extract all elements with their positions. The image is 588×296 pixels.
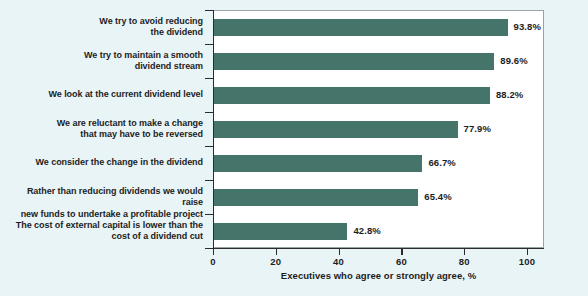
plot-area: 93.8%89.6%88.2%77.9%66.7%65.4%42.8% [213, 10, 544, 248]
bar-value-label: 65.4% [424, 191, 451, 202]
x-axis-tick [464, 249, 465, 255]
y-axis-tick [205, 214, 213, 215]
category-label-line: We consider the change in the dividend [36, 157, 203, 167]
x-axis-tick [339, 249, 340, 255]
x-axis-tick-label: 80 [459, 256, 470, 267]
y-axis-tick [205, 146, 213, 147]
bar [213, 223, 347, 240]
category-label-line: cost of a dividend cut [112, 231, 203, 241]
y-axis-tick [205, 10, 213, 11]
category-label: Rather than reducing dividends we would … [8, 186, 203, 221]
y-axis-tick [205, 44, 213, 45]
category-label-line: We try to maintain a smooth [84, 50, 203, 60]
y-axis-tick [205, 180, 213, 181]
category-label-line: dividend stream [135, 61, 203, 71]
bar-value-label: 42.8% [353, 225, 380, 236]
bar [213, 53, 494, 70]
x-axis-tick-label: 20 [270, 256, 281, 267]
x-axis-tick [276, 249, 277, 255]
x-axis-tick [213, 249, 214, 255]
category-label-line: We look at the current dividend level [48, 89, 203, 99]
category-label-line: Rather than reducing dividends we would … [27, 186, 203, 208]
category-label: We try to avoid reducingthe dividend [8, 16, 203, 39]
x-axis-tick-label: 100 [519, 256, 535, 267]
category-label: The cost of external capital is lower th… [8, 220, 203, 243]
category-label: We are reluctant to make a changethat ma… [8, 118, 203, 141]
x-axis-tick [401, 249, 402, 255]
x-axis-tick-label: 40 [333, 256, 344, 267]
y-axis-tick [205, 112, 213, 113]
chart-figure: 93.8%89.6%88.2%77.9%66.7%65.4%42.8% 0204… [0, 0, 588, 296]
x-axis-line [205, 248, 544, 249]
category-label-line: The cost of external capital is lower th… [16, 220, 203, 230]
bar [213, 189, 418, 206]
category-label-line: We try to avoid reducing [99, 16, 203, 26]
category-label: We consider the change in the dividend [8, 157, 203, 169]
x-axis-tick-label: 0 [210, 256, 215, 267]
category-label: We try to maintain a smoothdividend stre… [8, 50, 203, 73]
category-label-line: the dividend [151, 27, 203, 37]
bar [213, 87, 490, 104]
bar [213, 155, 422, 172]
y-axis-line [213, 10, 214, 249]
bar-value-label: 93.8% [514, 21, 541, 32]
bar-value-label: 89.6% [500, 55, 527, 66]
x-axis-title: Executives who agree or strongly agree, … [213, 270, 544, 281]
category-label: We look at the current dividend level [8, 89, 203, 101]
category-label-line: that may have to be reversed [80, 129, 203, 139]
bar [213, 19, 508, 36]
x-axis-tick [527, 249, 528, 255]
bar-value-label: 88.2% [496, 89, 523, 100]
bar-value-label: 66.7% [428, 157, 455, 168]
category-label-line: We are reluctant to make a change [57, 118, 203, 128]
bar-value-label: 77.9% [464, 123, 491, 134]
x-axis-tick-label: 60 [396, 256, 407, 267]
bar [213, 121, 458, 138]
y-axis-tick [205, 78, 213, 79]
category-label-line: new funds to undertake a profitable proj… [21, 209, 203, 219]
